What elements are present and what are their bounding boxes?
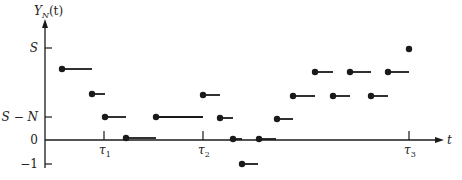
- y-axis-label: YN(t): [34, 4, 63, 20]
- y-tick-label: S: [30, 41, 38, 55]
- closed-endpoint-dot: [256, 136, 262, 142]
- x-axis-label: t: [447, 133, 452, 147]
- closed-endpoint-dot: [59, 66, 65, 72]
- step-segments: [59, 46, 412, 167]
- closed-endpoint-dot: [347, 69, 353, 75]
- closed-endpoint-dot: [89, 91, 95, 97]
- closed-endpoint-dot: [290, 93, 296, 99]
- closed-endpoint-dot: [102, 114, 108, 120]
- y-tick-label: 0: [30, 133, 38, 147]
- closed-endpoint-dot: [153, 114, 159, 120]
- closed-endpoint-dot: [239, 161, 245, 167]
- closed-endpoint-dot: [330, 93, 336, 99]
- y-axis-arrow-icon: [42, 19, 48, 28]
- x-tick-label: τ3: [404, 143, 416, 159]
- final-point-dot: [406, 46, 412, 52]
- closed-endpoint-dot: [368, 93, 374, 99]
- y-tick-label: −1: [20, 157, 38, 171]
- step-function-diagram: YN(t) t SS − N0−1 τ1τ2τ3: [0, 0, 462, 180]
- closed-endpoint-dot: [200, 92, 206, 98]
- closed-endpoint-dot: [385, 69, 391, 75]
- closed-endpoint-dot: [230, 136, 236, 142]
- closed-endpoint-dot: [123, 135, 129, 141]
- x-ticks: τ1τ2τ3: [99, 131, 416, 159]
- x-tick-label: τ2: [198, 143, 210, 159]
- closed-endpoint-dot: [274, 116, 280, 122]
- x-tick-label: τ1: [99, 143, 111, 159]
- closed-endpoint-dot: [217, 115, 223, 121]
- closed-endpoint-dot: [312, 69, 318, 75]
- y-tick-label: S − N: [2, 110, 39, 124]
- x-axis-arrow-icon: [435, 137, 444, 143]
